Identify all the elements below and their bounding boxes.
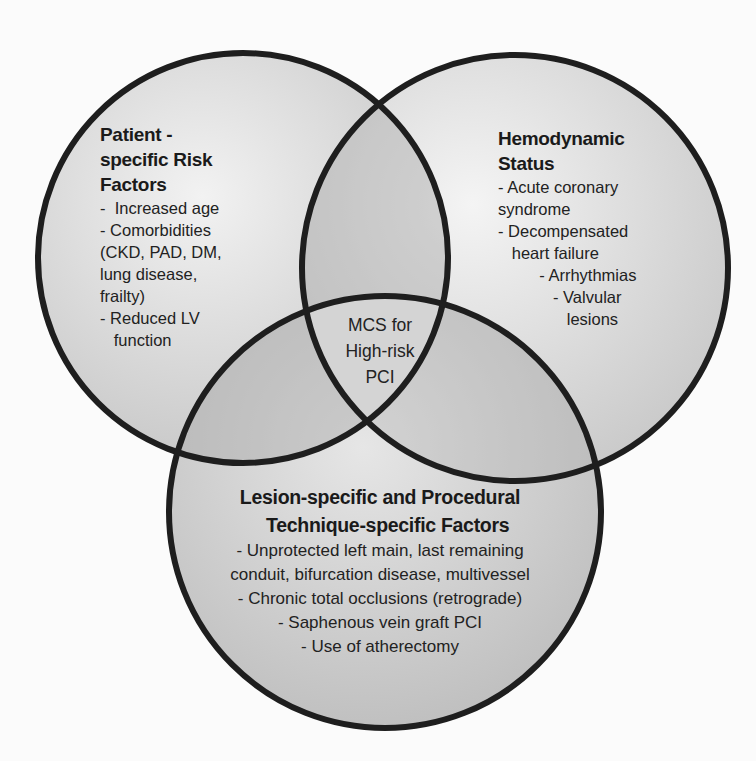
patient-specific-risk-factors: Patient - specific Risk Factors - Increa… xyxy=(100,122,222,351)
left-item: frailty) xyxy=(100,285,222,307)
bottom-title-line: Lesion-specific and Procedural xyxy=(170,483,590,511)
left-item: - Reduced LV xyxy=(100,307,222,329)
right-item: - Decompensated xyxy=(498,220,636,242)
left-item: - Increased age xyxy=(100,197,222,219)
right-item: heart failure xyxy=(498,242,636,264)
bottom-item: - Saphenous vein graft PCI xyxy=(170,611,590,635)
left-item: lung disease, xyxy=(100,263,222,285)
bottom-title-line: Technique-specific Factors xyxy=(170,511,590,539)
left-item: function xyxy=(100,329,222,351)
right-title-line: Hemodynamic xyxy=(498,126,636,151)
lesion-procedural-factors: Lesion-specific and Procedural Technique… xyxy=(170,483,590,659)
right-item: lesions xyxy=(498,308,636,330)
bottom-item: - Unprotected left main, last remaining xyxy=(170,539,590,563)
left-title-line: specific Risk xyxy=(100,147,222,172)
hemodynamic-status: Hemodynamic Status - Acute coronary synd… xyxy=(498,126,636,330)
right-item: - Arrhythmias xyxy=(498,264,636,286)
left-item: (CKD, PAD, DM, xyxy=(100,241,222,263)
center-line: PCI xyxy=(300,364,460,390)
right-item: syndrome xyxy=(498,198,636,220)
center-line: MCS for xyxy=(300,312,460,338)
left-title-line: Factors xyxy=(100,172,222,197)
bottom-item: conduit, bifurcation disease, multivesse… xyxy=(170,563,590,587)
right-title-line: Status xyxy=(498,151,636,176)
center-label-mcs-high-risk-pci: MCS for High-risk PCI xyxy=(300,312,460,390)
left-title-line: Patient - xyxy=(100,122,222,147)
bottom-item: - Use of atherectomy xyxy=(170,635,590,659)
right-item: - Acute coronary xyxy=(498,176,636,198)
left-item: - Comorbidities xyxy=(100,219,222,241)
right-item: - Valvular xyxy=(498,286,636,308)
center-line: High-risk xyxy=(300,338,460,364)
bottom-item: - Chronic total occlusions (retrograde) xyxy=(170,587,590,611)
